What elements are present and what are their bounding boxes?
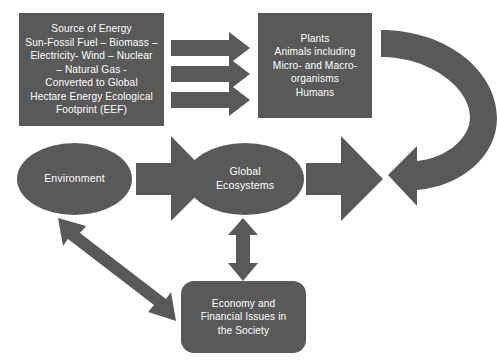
node-economy-financial-issues-label: Economy and Financial Issues in the Soci… xyxy=(181,297,306,337)
node-economy-financial-issues[interactable]: Economy and Financial Issues in the Soci… xyxy=(181,281,306,353)
energy-to-biota-arrow-3 xyxy=(171,84,250,116)
node-source-of-energy-label: Source of Energy Sun-Fossil Fuel – Bioma… xyxy=(19,22,164,116)
ecosystems-economy-double-arrow xyxy=(228,218,258,281)
biota-return-curved-arrow xyxy=(381,30,497,206)
energy-to-biota-arrow-2 xyxy=(171,58,250,90)
node-global-ecosystems-label: Global Ecosystems xyxy=(186,165,304,193)
energy-to-biota-arrow-1 xyxy=(171,32,250,64)
node-plants-animals-label: Plants Animals including Micro- and Macr… xyxy=(258,32,372,99)
node-plants-animals[interactable]: Plants Animals including Micro- and Macr… xyxy=(258,13,372,118)
diagram-canvas: Source of Energy Sun-Fossil Fuel – Bioma… xyxy=(0,0,497,362)
curved-to-ecosystems-arrow xyxy=(306,136,383,221)
node-global-ecosystems[interactable]: Global Ecosystems xyxy=(186,143,304,215)
node-source-of-energy[interactable]: Source of Energy Sun-Fossil Fuel – Bioma… xyxy=(19,13,164,126)
node-environment-label: Environment xyxy=(17,172,132,186)
node-environment[interactable]: Environment xyxy=(17,143,132,215)
environment-economy-double-arrow xyxy=(58,218,176,321)
